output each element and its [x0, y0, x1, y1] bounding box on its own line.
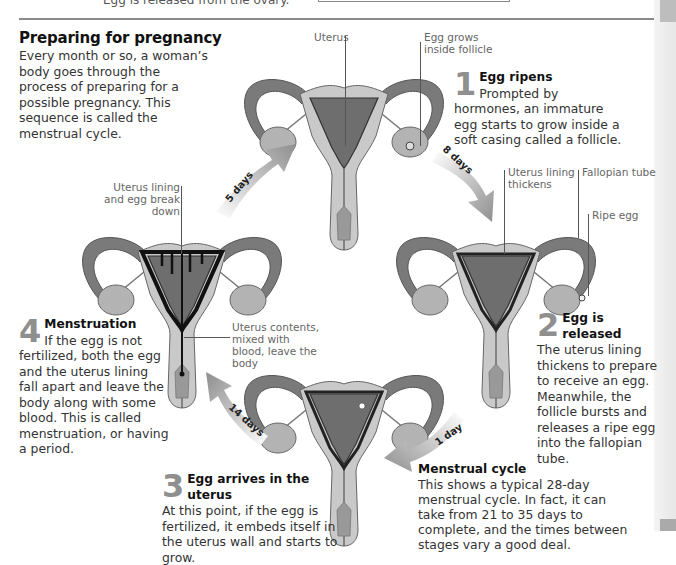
label-lining-breakdown: Uterus lining and egg break down [104, 181, 180, 217]
step-body: At this point, if the egg is fertilized,… [162, 503, 337, 565]
leader-egg-grows [420, 42, 421, 146]
step-2: 2 Egg is released The uterus lining thic… [537, 311, 659, 466]
step-1: 1 Egg ripens Prompted by hormones, an im… [454, 70, 624, 148]
label-contents-leave: Uterus contents, mixed with blood, leave… [232, 321, 322, 369]
caption-title: Menstrual cycle [418, 462, 526, 476]
leader-uterus [345, 36, 346, 146]
step-body: Prompted by hormones, an immature egg st… [454, 86, 621, 148]
caption-body: This shows a typical 28-day menstrual cy… [418, 477, 628, 552]
step-number: 3 [162, 473, 184, 499]
arrow-8-days: 8 days [432, 143, 494, 222]
step-number: 2 [537, 312, 559, 338]
label-ripe-egg: Ripe egg [592, 209, 638, 221]
leader-lining-breakdown [181, 186, 182, 254]
label-egg-grows: Egg grows inside follicle [424, 31, 494, 55]
label-lining-thickens: Uterus lining thickens [508, 166, 582, 190]
step-body: If the egg is not fertilized, both the e… [19, 333, 169, 457]
label-uterus: Uterus [314, 31, 349, 43]
step-4: 4 Menstruation If the egg is not fertili… [19, 317, 169, 457]
leader-fallopian-tube [578, 170, 579, 238]
step-title: Menstruation [19, 317, 169, 333]
arrow-14-days: 14 days [206, 372, 268, 446]
step-body: The uterus lining thickens to prepare to… [537, 342, 657, 466]
leader-lining-thickens [504, 170, 505, 254]
leader-ripe-egg [588, 214, 589, 296]
leader-contents-leave [184, 337, 230, 338]
step-number: 4 [19, 318, 41, 344]
step-3: 3 Egg arrives in the uterus At this poin… [162, 472, 344, 565]
step-title: Egg arrives in the uterus [162, 472, 344, 503]
step-number: 1 [454, 71, 476, 97]
arrow-5-days: 5 days [216, 144, 296, 218]
label-fallopian-tube: Fallopian tube [582, 166, 656, 178]
step-title: Egg ripens [454, 70, 624, 86]
